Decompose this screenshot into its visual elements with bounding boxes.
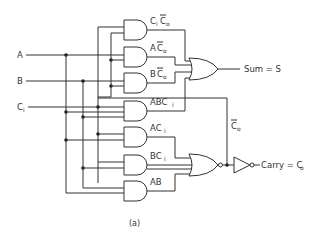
junction-b: [81, 79, 85, 83]
input-a-label: A: [17, 50, 23, 60]
svg-text:B: B: [150, 69, 156, 79]
svg-text:o: o: [163, 73, 167, 80]
and-4-label: ABC i: [150, 97, 174, 108]
svg-text:i: i: [164, 127, 166, 134]
and-6-label: BC i: [150, 151, 166, 162]
and-gate-7: [124, 181, 147, 201]
inverter: [234, 157, 250, 173]
and-gate-6: [124, 155, 147, 175]
svg-text:o: o: [166, 20, 170, 27]
figure-caption: (a): [129, 219, 140, 228]
svg-text:o: o: [163, 47, 167, 54]
svg-text:o: o: [237, 125, 241, 132]
and-gate-1: [124, 20, 147, 40]
svg-text:ABC: ABC: [150, 97, 167, 107]
input-ci-label: C i: [17, 102, 25, 113]
nor-gate-carry: [189, 154, 218, 176]
svg-text:i: i: [23, 106, 25, 113]
carry-output-label: Carry = C o: [261, 160, 304, 171]
and-2-label: A C o: [150, 42, 167, 54]
and-gate-4: [124, 101, 147, 121]
svg-text:i: i: [172, 101, 174, 108]
svg-text:BC: BC: [150, 151, 162, 161]
or-gate-sum: [189, 58, 218, 80]
svg-text:i: i: [164, 155, 166, 162]
svg-text:o: o: [300, 164, 304, 171]
svg-text:Carry = C: Carry = C: [261, 160, 303, 170]
cobar-label: C o: [231, 120, 241, 132]
and-3-label: B C o: [150, 68, 167, 80]
junction-a: [64, 53, 68, 57]
svg-text:AC: AC: [150, 123, 162, 133]
inverter-bubble: [250, 163, 254, 167]
junction-ci: [96, 105, 100, 109]
and-1-label: C i C o: [150, 15, 170, 27]
and-7-label: AB: [150, 177, 162, 187]
and-5-label: AC i: [150, 123, 166, 134]
svg-text:i: i: [156, 20, 158, 27]
and-gate-5: [124, 127, 147, 147]
full-adder-diagram: A B C i C i C o: [0, 0, 310, 242]
sum-output-label: Sum = S: [244, 64, 281, 74]
and-gate-3: [124, 73, 147, 93]
svg-text:A: A: [150, 43, 156, 53]
nor-bubble: [219, 163, 223, 167]
and-gate-2: [124, 47, 147, 67]
input-b-label: B: [17, 76, 23, 86]
